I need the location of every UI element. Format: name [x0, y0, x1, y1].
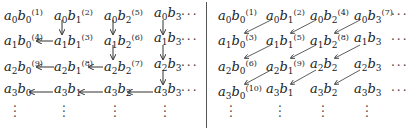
- left-arrows: [30, 20, 163, 92]
- arrow-diagonal-icon: [335, 45, 360, 58]
- arrow-diagonal-icon: [291, 70, 316, 84]
- arrow-diagonal-icon: [335, 70, 360, 84]
- arrow-diagonal-icon: [245, 45, 271, 58]
- arrow-diagonal-icon: [245, 20, 271, 33]
- arrow-diagonal-icon: [291, 45, 316, 58]
- arrow-diagonal-icon: [335, 20, 360, 33]
- arrow-diagonal-icon: [245, 70, 271, 84]
- arrows-layer: [0, 0, 416, 128]
- arrow-diagonal-icon: [291, 20, 316, 33]
- right-arrows: [245, 20, 360, 84]
